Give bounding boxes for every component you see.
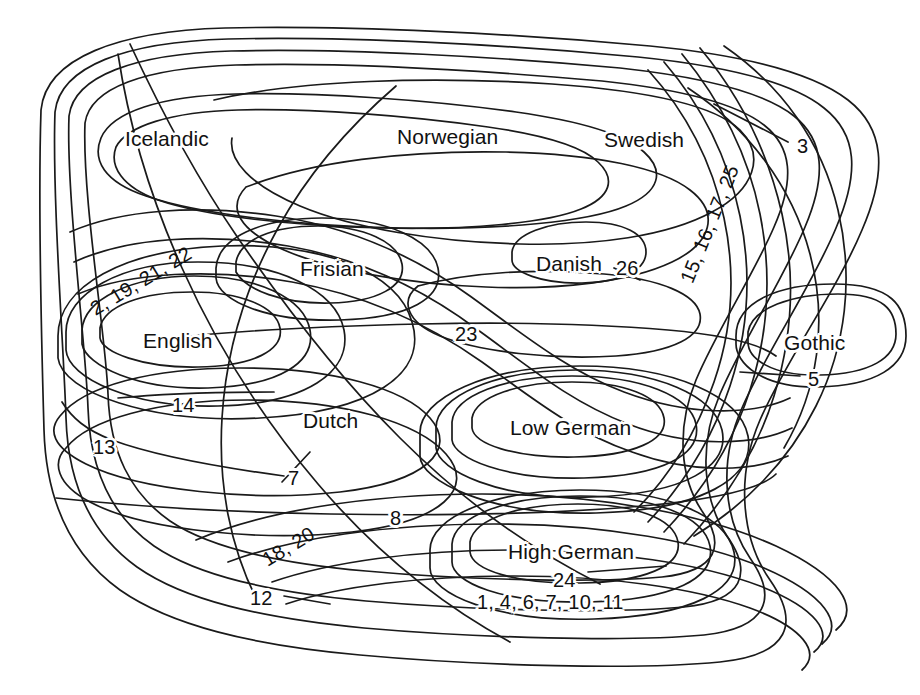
label-isogloss-5: 5 [808, 369, 819, 389]
label-danish: Danish [536, 253, 602, 274]
label-english: English [143, 330, 213, 351]
curve-diagonal-link-1 [130, 44, 600, 584]
label-isogloss-1-4-6-7-10-11: 1, 4, 6, 7, 10, 11 [477, 592, 624, 612]
label-norwegian: Norwegian [397, 126, 498, 147]
label-isogloss-3: 3 [797, 136, 808, 156]
label-high-german: High German [508, 541, 634, 562]
label-icelandic: Icelandic [125, 128, 209, 149]
curve-low-german-outer2 [420, 366, 749, 513]
leader-3 [714, 104, 788, 142]
euler-curves-canvas [0, 0, 920, 695]
label-isogloss-26: 26 [616, 258, 639, 278]
label-dutch: Dutch [303, 410, 358, 431]
label-isogloss-12: 12 [250, 588, 273, 608]
label-isogloss-24: 24 [553, 570, 576, 590]
curve-icelandic-1 [98, 94, 656, 229]
label-frisian: Frisian [300, 258, 364, 279]
label-isogloss-14: 14 [172, 395, 195, 415]
label-swedish: Swedish [604, 129, 684, 150]
label-gothic: Gothic [784, 332, 845, 353]
label-low-german: Low German [510, 417, 631, 438]
label-isogloss-13: 13 [93, 437, 116, 457]
label-isogloss-23: 23 [455, 324, 478, 344]
label-isogloss-7: 7 [288, 468, 299, 488]
euler-diagram-figure: Icelandic Norwegian Swedish Frisian Dani… [0, 0, 920, 695]
curve-link-23 [190, 323, 776, 356]
label-isogloss-8: 8 [390, 508, 401, 528]
